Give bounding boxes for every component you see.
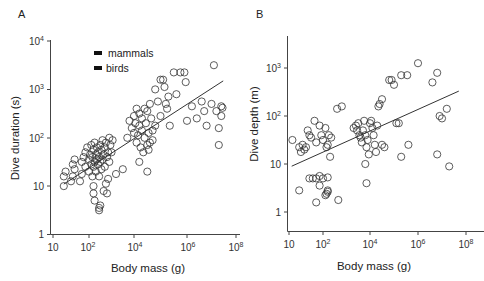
data-point	[90, 183, 97, 190]
data-point	[443, 105, 450, 112]
data-point	[105, 175, 112, 182]
panel-a-x-axis-title: Body mass (g)	[111, 262, 185, 274]
data-point	[316, 182, 323, 189]
data-point	[71, 166, 78, 173]
data-point	[363, 144, 370, 151]
data-point	[335, 196, 342, 203]
panel-b: B 103 102 10 1 10 102 104 106 108 Body m…	[248, 8, 484, 272]
svg-text:1: 1	[275, 207, 281, 218]
svg-text:104: 104	[362, 238, 377, 250]
panel-a-data-points	[60, 62, 226, 214]
data-point	[201, 108, 208, 115]
data-point	[124, 134, 131, 141]
svg-text:10: 10	[47, 242, 59, 253]
data-point	[157, 112, 164, 119]
svg-text:10: 10	[270, 159, 282, 170]
data-point	[318, 132, 325, 139]
data-point	[165, 93, 172, 100]
data-point	[136, 158, 143, 165]
legend-mammals-swatch	[94, 51, 102, 55]
data-point	[313, 139, 320, 146]
svg-text:102: 102	[266, 110, 281, 122]
data-point	[208, 100, 215, 107]
data-point	[173, 91, 180, 98]
data-point	[76, 178, 83, 185]
data-point	[324, 174, 331, 181]
data-point	[161, 83, 168, 90]
panel-a-y-axis-title: Dive duration (s)	[9, 96, 21, 181]
data-point	[289, 136, 296, 143]
svg-text:10: 10	[33, 181, 45, 192]
data-point	[89, 173, 96, 180]
svg-text:102: 102	[315, 238, 330, 250]
panel-a-x-ticks: 10 102 104 106 108	[47, 235, 243, 254]
data-point	[183, 117, 190, 124]
data-point	[96, 173, 103, 180]
data-point	[313, 199, 320, 206]
data-point	[203, 122, 210, 129]
data-point	[71, 156, 78, 163]
data-point	[132, 120, 139, 127]
data-point	[133, 139, 140, 146]
data-point	[102, 180, 109, 187]
data-point	[215, 125, 222, 132]
data-point	[69, 161, 76, 168]
panel-a: A 104 103 102 10 1 10 102 104 106	[9, 8, 244, 274]
svg-text:106: 106	[410, 238, 425, 250]
data-point	[405, 141, 412, 148]
panel-b-x-axis-title: Body mass (g)	[337, 260, 411, 272]
data-point	[152, 86, 159, 93]
panel-b-y-axis-title: Dive depth (m)	[248, 86, 260, 162]
data-point	[370, 132, 377, 139]
data-point	[434, 69, 441, 76]
data-point	[365, 151, 372, 158]
panel-b-data-points	[289, 60, 453, 206]
data-point	[182, 79, 189, 86]
data-point	[215, 141, 222, 148]
legend-mammals-label: mammals	[108, 47, 154, 59]
data-point	[119, 166, 126, 173]
data-point	[162, 100, 169, 107]
data-point	[154, 98, 161, 105]
data-point	[219, 104, 226, 111]
data-point	[170, 69, 177, 76]
data-point	[446, 163, 453, 170]
panel-a-regression-line	[64, 81, 223, 184]
svg-text:1: 1	[38, 229, 44, 240]
data-point	[434, 151, 441, 158]
figure: A 104 103 102 10 1 10 102 104 106	[0, 0, 484, 281]
data-point	[319, 136, 326, 143]
data-point	[198, 98, 205, 105]
svg-text:103: 103	[29, 83, 44, 95]
data-point	[304, 127, 311, 134]
data-point	[90, 190, 97, 197]
legend-birds-swatch	[94, 66, 102, 70]
legend-birds-label: birds	[106, 62, 129, 74]
data-point	[362, 160, 369, 167]
svg-text:104: 104	[29, 35, 44, 47]
data-point	[112, 170, 119, 177]
data-point	[146, 100, 153, 107]
data-point	[97, 202, 104, 209]
panel-b-y-ticks: 103 102 10 1	[266, 62, 288, 218]
svg-text:104: 104	[127, 241, 142, 253]
data-point	[414, 60, 421, 67]
svg-text:102: 102	[80, 241, 95, 253]
panel-b-x-ticks: 10 102 104 106 108	[283, 232, 473, 251]
data-point	[372, 148, 379, 155]
data-point	[181, 69, 188, 76]
data-point	[398, 153, 405, 160]
panel-a-label: A	[18, 8, 26, 20]
data-point	[324, 141, 331, 148]
data-point	[193, 115, 200, 122]
svg-text:10: 10	[283, 239, 295, 250]
data-point	[371, 141, 378, 148]
svg-text:108: 108	[228, 241, 243, 253]
data-point	[306, 132, 313, 139]
data-point	[177, 69, 184, 76]
data-point	[60, 173, 67, 180]
data-point	[363, 180, 370, 187]
svg-text:102: 102	[29, 132, 44, 144]
data-point	[148, 115, 155, 122]
panel-b-label: B	[256, 8, 263, 20]
